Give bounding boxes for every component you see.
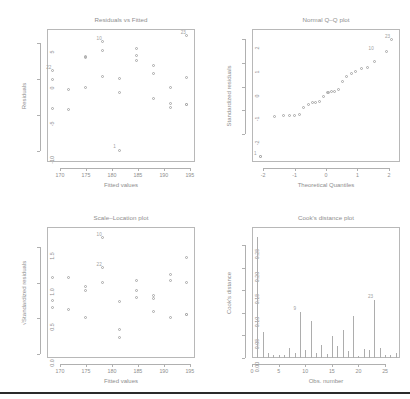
cooks-needle — [374, 300, 375, 358]
y-tick — [242, 290, 245, 291]
y-axis-label: Cook's distance — [226, 271, 232, 313]
x-tick-label: 20 — [344, 368, 372, 374]
point-label: 9 — [293, 306, 296, 311]
x-axis-line — [252, 364, 385, 365]
cooks-needle — [300, 312, 301, 358]
cooks-needle — [321, 345, 322, 358]
cooks-needle — [279, 355, 280, 358]
cooks-needle — [353, 316, 354, 358]
cooks-needle — [263, 332, 264, 358]
cooks-needle — [390, 355, 391, 358]
diagnostic-plot-sheet: Residuals vs Fitted170175180185190195Fit… — [0, 0, 410, 399]
cooks-needle — [295, 353, 296, 358]
y-tick — [242, 313, 245, 314]
cooks-needle — [337, 346, 338, 358]
cooks-needle — [257, 237, 258, 358]
cooks-needle — [311, 321, 312, 358]
x-tick-label: 15 — [318, 368, 346, 374]
cooks-needle — [364, 349, 365, 358]
cooks-needle — [289, 348, 290, 358]
x-tick — [385, 364, 386, 367]
panel-title: Cook's distance plot — [212, 214, 410, 221]
cooks-needle — [327, 354, 328, 358]
cooks-needle — [369, 350, 370, 358]
x-tick-label: 0 — [238, 368, 266, 374]
plot-area — [252, 227, 400, 358]
cooks-needle — [332, 336, 333, 358]
panel-cooks-distance: Cook's distance plot0510152025Obs. numbe… — [0, 0, 410, 399]
x-tick — [358, 364, 359, 367]
x-axis-label: Obs. number — [212, 378, 410, 384]
cooks-needle — [358, 356, 359, 358]
cooks-needle — [273, 355, 274, 358]
x-tick-label: 10 — [291, 368, 319, 374]
y-tick — [242, 268, 245, 269]
cooks-needle — [284, 355, 285, 358]
cooks-needle — [343, 330, 344, 358]
cooks-needle — [268, 353, 269, 358]
cooks-needle — [348, 351, 349, 358]
x-tick — [305, 364, 306, 367]
x-tick-label: 25 — [371, 368, 399, 374]
x-tick — [279, 364, 280, 367]
y-tick — [242, 245, 245, 246]
cooks-needle — [316, 353, 317, 358]
y-axis-line — [245, 245, 246, 358]
y-tick — [242, 358, 245, 359]
cooks-needle — [396, 353, 397, 358]
cooks-needle — [380, 348, 381, 358]
cooks-needle — [305, 350, 306, 358]
point-label: 23 — [368, 294, 373, 299]
x-tick — [332, 364, 333, 367]
cooks-needle — [385, 355, 386, 358]
y-tick — [242, 335, 245, 336]
x-tick — [252, 364, 253, 367]
y-tick-label: 0.00 — [254, 358, 260, 376]
x-tick-label: 5 — [265, 368, 293, 374]
footer-rule — [0, 392, 410, 394]
